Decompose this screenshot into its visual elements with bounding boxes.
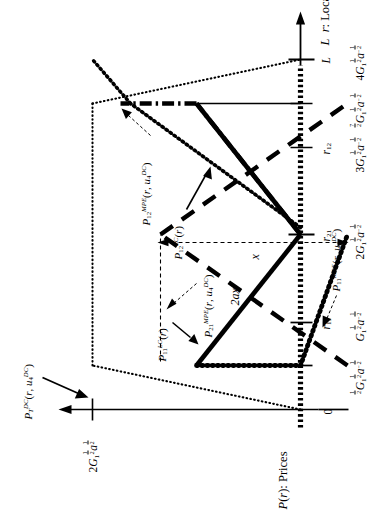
x-tick-value-4G: 4G112a−12 — [349, 45, 368, 80]
y-tick-label-2G: 2G112a12 — [82, 440, 101, 472]
pointer-p12-mpe — [121, 108, 150, 135]
x-tick-value-G: G112a−12 — [349, 312, 368, 342]
curve-label-p12-mpe: P12MPE(r, u4DC) — [140, 162, 153, 225]
curve-p12-mpe-dotted-tail — [92, 59, 300, 227]
x-tick-value-half-G: 12G112a−12 — [349, 360, 368, 394]
pointer-pt-dc — [42, 377, 88, 398]
pointer-p11-lc — [172, 322, 198, 344]
price-location-plot: P(r): Prices L r: Locations 2G112a12 0 r… — [0, 0, 392, 527]
x-tick-value-seven-half-G: 72G112a−12 — [349, 93, 368, 127]
x-tick-label-origin: 0 — [322, 408, 334, 414]
annotation-two-a-x: 2ax — [228, 288, 240, 305]
x-tick-label-r12: r12 — [320, 142, 333, 154]
curve-label-p11-mpe: P11MPE(r, u4DC) — [330, 228, 343, 291]
y-axis — [58, 398, 348, 420]
curve-label-p11-lc: P11LC(r) — [156, 328, 169, 361]
x-tick-value-3G: 3G112a−12 — [349, 137, 368, 172]
x-tick-label-r11: r11 — [320, 318, 333, 329]
curve-p11-mpe — [196, 234, 347, 365]
rotated-figure-stage: P(r): Prices L r: Locations 2G112a12 0 r… — [0, 0, 392, 527]
y-axis-label: P(r): Prices — [276, 451, 289, 509]
figure-page: P(r): Prices L r: Locations 2G112a12 0 r… — [0, 0, 392, 527]
curve-label-pt-dc: PTDC(r, u4DC) — [22, 364, 35, 420]
x-tick-label-L: L — [320, 57, 332, 63]
pointer-p21-mpe — [166, 283, 196, 309]
curve-label-p21-mpe: P21MPE(r, u4DC) — [202, 274, 215, 337]
x-axis-label: L r: Locations — [318, 0, 331, 45]
curve-label-p12-lc: P12LC(r) — [172, 225, 185, 259]
x-tick-value-2G: 2G112a−12 — [349, 224, 368, 259]
annotation-x: x — [248, 254, 260, 259]
